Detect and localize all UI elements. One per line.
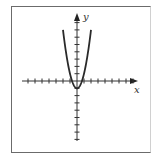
y-axis: y [74, 11, 89, 141]
y-axis-arrow-icon [74, 13, 80, 21]
x-axis-label: x [134, 84, 140, 95]
graph-canvas: x y [0, 0, 152, 159]
y-axis-label: y [82, 11, 89, 22]
x-axis: x [22, 78, 140, 95]
